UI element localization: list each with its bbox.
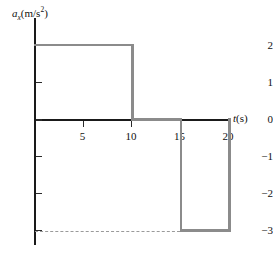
dashed-guide-line-minus-3 (35, 231, 180, 232)
x-axis-title: t(s) (233, 112, 248, 124)
data-segment-plateau-positive (34, 44, 134, 47)
y-tick-1 (36, 82, 42, 83)
data-segment-rise-at-20 (228, 118, 231, 232)
y-tick-label-minus-2: −2 (247, 187, 273, 199)
y-axis-title-unit-close: ) (44, 7, 48, 19)
y-axis-title-unit-open: (m/s (21, 7, 41, 19)
acceleration-time-graph: ax(m/s2) t(s) 2 1 0 −1 −2 −3 5 10 15 20 (0, 0, 273, 255)
data-segment-drop-at-10 (131, 44, 134, 121)
x-tick-label-5: 5 (68, 130, 98, 142)
y-tick-label-minus-1: −1 (247, 150, 273, 162)
y-tick-label-minus-3: −3 (247, 224, 273, 236)
x-tick-10 (131, 121, 132, 127)
data-segment-plateau-negative (180, 229, 231, 232)
y-tick-label-0: 0 (247, 113, 273, 125)
data-segment-drop-at-15 (180, 118, 183, 232)
y-tick-0 (36, 119, 42, 120)
data-segment-zero-10-to-15 (131, 118, 182, 121)
x-axis-title-unit: (s) (236, 112, 248, 124)
y-tick-minus-2 (36, 193, 42, 194)
y-axis-line (34, 18, 36, 245)
y-tick-minus-1 (36, 156, 42, 157)
y-axis-title: ax(m/s2) (12, 5, 48, 22)
x-tick-label-10: 10 (116, 130, 146, 142)
y-tick-label-1: 1 (247, 76, 273, 88)
x-tick-5 (83, 121, 84, 127)
y-tick-label-2: 2 (247, 39, 273, 51)
